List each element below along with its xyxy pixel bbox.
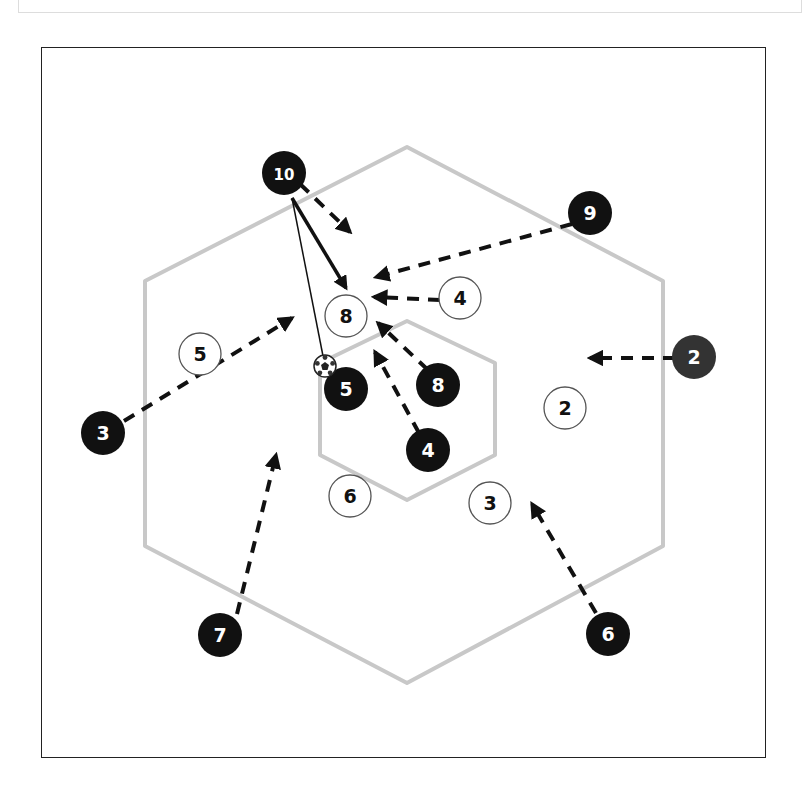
attacker-7: 7 [198,613,242,657]
attacker-number: 5 [339,378,352,400]
defender-number: 5 [193,343,206,365]
attacker-number: 7 [213,624,226,646]
defender-2: 2 [544,387,586,429]
tactical-diagram: 8452631092358476 [0,0,807,803]
attacker-number: 6 [601,623,614,645]
defender-number: 2 [558,397,571,419]
run-arrow-a9 [376,224,572,277]
defender-number: 3 [483,492,496,514]
attacker-9: 9 [568,191,612,235]
run-arrow-a6 [532,504,596,613]
attacker-4: 4 [406,428,450,472]
attacker-number: 4 [421,439,434,461]
soccer-ball-icon [314,355,336,377]
defender-8: 8 [325,295,367,337]
run-arrow-d4 [374,297,440,300]
attacker-2: 2 [672,335,716,379]
attacker-8: 8 [416,363,460,407]
attacker-number: 10 [274,166,295,184]
attacker-number: 9 [583,202,596,224]
attacker-3: 3 [81,411,125,455]
defender-number: 8 [339,305,352,327]
defender-6: 6 [329,475,371,517]
attacker-10: 10 [262,151,306,195]
defender-5: 5 [179,333,221,375]
attacker-number: 2 [687,346,700,368]
run-arrow-a4 [375,352,419,433]
defender-3: 3 [469,482,511,524]
defender-4: 4 [439,277,481,319]
defender-number: 4 [453,287,466,309]
attacker-number: 8 [431,374,444,396]
attacker-number: 3 [96,422,109,444]
defender-number: 6 [343,485,356,507]
run-arrow-a7 [237,455,276,614]
attacker-6: 6 [586,612,630,656]
